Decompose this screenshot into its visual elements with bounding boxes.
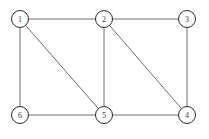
node-6[interactable]: 6 bbox=[12, 107, 29, 124]
edge-2-4 bbox=[110, 25, 182, 108]
node-4[interactable]: 4 bbox=[179, 107, 196, 124]
node-label-5: 5 bbox=[102, 111, 106, 120]
node-label-3: 3 bbox=[185, 15, 189, 24]
node-5[interactable]: 5 bbox=[96, 107, 113, 124]
graph-diagram: 123456 bbox=[0, 0, 209, 139]
node-label-4: 4 bbox=[185, 111, 189, 120]
node-label-1: 1 bbox=[18, 15, 22, 24]
edges-group bbox=[20, 19, 187, 115]
edge-1-5 bbox=[26, 25, 99, 108]
node-3[interactable]: 3 bbox=[179, 11, 196, 28]
graph-canvas: 123456 bbox=[0, 0, 209, 139]
node-label-2: 2 bbox=[102, 15, 106, 24]
node-2[interactable]: 2 bbox=[96, 11, 113, 28]
node-1[interactable]: 1 bbox=[12, 11, 29, 28]
node-label-6: 6 bbox=[18, 111, 22, 120]
